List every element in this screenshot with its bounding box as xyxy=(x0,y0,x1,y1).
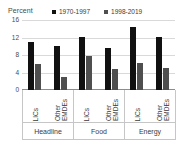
category-cell: LICs xyxy=(23,90,48,122)
legend-label-series-2: 1998-2019 xyxy=(111,9,142,16)
y-axis-unit-label: Percent xyxy=(8,7,33,14)
bar-group xyxy=(22,20,73,90)
bar[interactable] xyxy=(28,42,34,90)
bar-chart: Percent 1970-1997 1998-2019 0481216 LICs… xyxy=(0,0,177,142)
bar[interactable] xyxy=(86,56,92,90)
category-group-box: LICsOther EMDEs xyxy=(73,90,125,122)
bar-group xyxy=(124,20,175,90)
bar-pair xyxy=(79,20,92,90)
bar[interactable] xyxy=(79,37,85,90)
category-label: Other EMDEs xyxy=(156,99,170,121)
chart-legend: 1970-1997 1998-2019 xyxy=(52,9,142,16)
category-cell: Other EMDEs xyxy=(150,90,175,122)
bar[interactable] xyxy=(105,48,111,90)
bar[interactable] xyxy=(54,46,60,90)
category-group-box: LICsOther EMDEs xyxy=(22,90,74,122)
y-axis-tick-label: 16 xyxy=(12,17,19,24)
y-axis-tick-label: 8 xyxy=(15,52,19,59)
bar[interactable] xyxy=(130,27,136,90)
bar-pair xyxy=(130,20,143,90)
category-group-box: LICsOther EMDEs xyxy=(124,90,176,122)
legend-swatch-icon-series-1 xyxy=(52,10,56,14)
bar-pair xyxy=(28,20,41,90)
category-label: Other EMDEs xyxy=(105,99,119,121)
bar-pair xyxy=(105,20,118,90)
legend-item-series-1[interactable]: 1970-1997 xyxy=(52,9,90,16)
plot-area: 0481216 xyxy=(22,20,175,90)
category-cell: LICs xyxy=(125,90,150,122)
bar-pair xyxy=(156,20,169,90)
bar[interactable] xyxy=(61,77,67,90)
group-label: Headline xyxy=(22,122,74,140)
group-label-strip: HeadlineFoodEnergy xyxy=(22,122,175,140)
y-axis-tick-label: 12 xyxy=(12,34,19,41)
legend-swatch-icon-series-2 xyxy=(104,10,108,14)
bar-groups xyxy=(22,20,175,90)
category-cell: Other EMDEs xyxy=(99,90,124,122)
y-axis-tick-label: 0 xyxy=(15,87,19,94)
group-label: Energy xyxy=(124,122,176,140)
category-cell: Other EMDEs xyxy=(48,90,73,122)
bar[interactable] xyxy=(156,37,162,90)
category-label-strip: LICsOther EMDEsLICsOther EMDEsLICsOther … xyxy=(22,90,175,122)
bar[interactable] xyxy=(112,69,118,90)
category-label: LICs xyxy=(134,108,141,121)
legend-item-series-2[interactable]: 1998-2019 xyxy=(104,9,142,16)
legend-label-series-1: 1970-1997 xyxy=(59,9,90,16)
bar-pair xyxy=(54,20,67,90)
category-label: LICs xyxy=(83,108,90,121)
bar-group xyxy=(73,20,124,90)
category-label: LICs xyxy=(32,108,39,121)
category-cell: LICs xyxy=(74,90,99,122)
bar[interactable] xyxy=(163,68,169,90)
category-label: Other EMDEs xyxy=(54,99,68,121)
y-axis-tick-label: 4 xyxy=(15,69,19,76)
bar[interactable] xyxy=(137,63,143,90)
bar[interactable] xyxy=(35,64,41,90)
group-label: Food xyxy=(73,122,125,140)
